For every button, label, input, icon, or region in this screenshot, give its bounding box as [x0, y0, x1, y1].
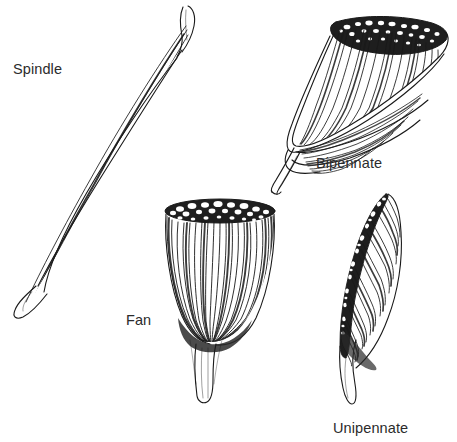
label-bipennate: Bipennate — [316, 155, 382, 171]
label-spindle: Spindle — [13, 61, 62, 77]
muscle-architecture-figure: Spindle Bipennate Fan Unipennate — [0, 0, 457, 442]
label-unipennate: Unipennate — [333, 420, 408, 436]
fan-muscle-drawing — [165, 199, 275, 403]
unipennate-muscle-drawing — [340, 194, 402, 404]
label-fan: Fan — [126, 312, 151, 328]
muscle-illustrations — [0, 0, 457, 442]
spindle-muscle-drawing — [14, 6, 195, 323]
